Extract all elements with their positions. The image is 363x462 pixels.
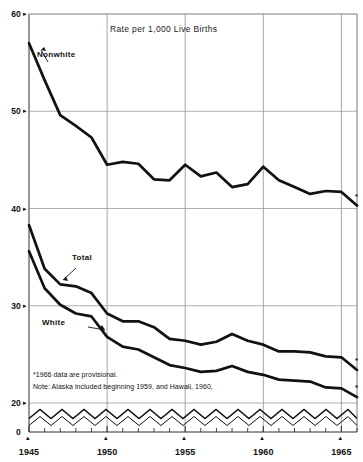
x-tick-marker-1955: ▴ bbox=[182, 434, 186, 442]
infant-mortality-chart: Rate per 1,000 Live Births 60 50 40 30 2… bbox=[0, 0, 363, 462]
y-tick-marker-20: ▸ bbox=[23, 399, 27, 407]
x-axis-label-1945: 1945 bbox=[12, 447, 46, 457]
y-axis-label-0: 0 bbox=[3, 427, 21, 437]
chart-title: Rate per 1,000 Live Births bbox=[110, 24, 217, 34]
y-tick-marker-50: ▸ bbox=[23, 107, 27, 115]
y-axis-label-20: 20 bbox=[3, 398, 21, 408]
axis-break-zigzag bbox=[29, 410, 357, 426]
series-label-white: White bbox=[42, 318, 65, 327]
y-axis-label-30: 30 bbox=[3, 301, 21, 311]
x-tick-marker-1950: ▴ bbox=[104, 434, 108, 442]
y-tick-marker-40: ▸ bbox=[23, 205, 27, 213]
footnote-alaska-hawaii: Note: Alaska included beginning 1959, an… bbox=[33, 383, 213, 390]
x-axis-label-1950: 1950 bbox=[90, 447, 124, 457]
x-axis-minor-ticks bbox=[29, 426, 357, 432]
series-label-total: Total bbox=[72, 253, 92, 262]
x-axis-label-1955: 1955 bbox=[168, 447, 202, 457]
annotation-leader-lines bbox=[41, 47, 105, 330]
x-tick-marker-1945: ▴ bbox=[26, 434, 30, 442]
y-axis-label-60: 60 bbox=[3, 9, 21, 19]
y-axis-label-40: 40 bbox=[3, 204, 21, 214]
x-axis-label-1965: 1965 bbox=[324, 447, 358, 457]
x-tick-marker-1965: ▴ bbox=[338, 434, 342, 442]
y-tick-marker-30: ▸ bbox=[23, 302, 27, 310]
x-tick-marker-1960: ▴ bbox=[260, 434, 264, 442]
footnote-provisional: *1966 data are provisional. bbox=[33, 371, 118, 378]
provisional-asterisk-white: * bbox=[355, 383, 358, 392]
y-tick-marker-60: ▸ bbox=[23, 10, 27, 18]
y-axis-label-50: 50 bbox=[3, 106, 21, 116]
provisional-asterisk-total: * bbox=[355, 356, 358, 365]
series-label-nonwhite: Nonwhite bbox=[37, 50, 75, 59]
series-lines bbox=[29, 43, 357, 397]
provisional-asterisk-nonwhite: * bbox=[355, 192, 358, 201]
chart-canvas bbox=[0, 0, 363, 462]
x-axis-label-1960: 1960 bbox=[246, 447, 280, 457]
